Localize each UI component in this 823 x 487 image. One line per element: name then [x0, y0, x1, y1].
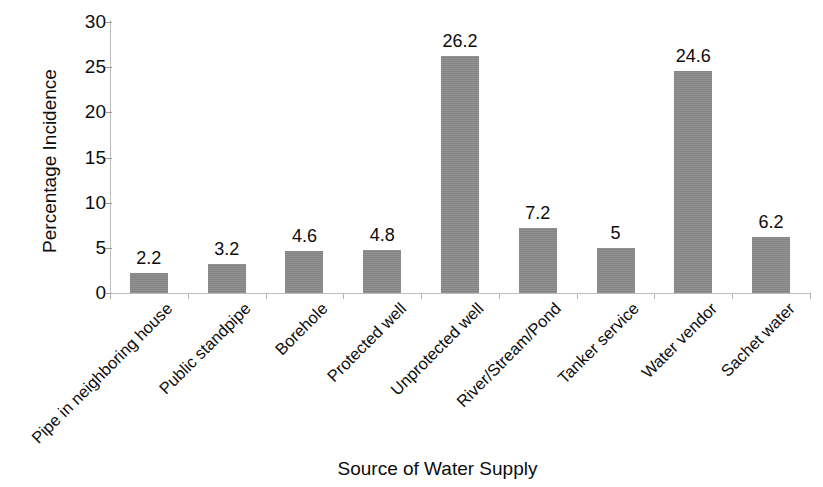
- plot-area: 2.23.24.64.826.27.2524.66.2: [110, 22, 810, 293]
- bar-chart: Percentage Incidence 051015202530 2.23.2…: [0, 0, 823, 487]
- x-axis-tick-mark: [577, 293, 578, 299]
- bar-slot: 7.2: [499, 22, 577, 293]
- bar-value-label: 4.8: [370, 226, 395, 244]
- bar[interactable]: [752, 237, 790, 293]
- bar-slot: 24.6: [654, 22, 732, 293]
- x-axis-tick-mark: [654, 293, 655, 299]
- x-axis-category-labels: Pipe in neighboring housePublic standpip…: [110, 293, 810, 443]
- x-axis-title-text: Source of Water Supply: [338, 458, 538, 480]
- x-axis-label-slot: Sachet water: [732, 293, 810, 443]
- bar-slot: 26.2: [421, 22, 499, 293]
- bar[interactable]: [285, 251, 323, 293]
- bar-slot: 4.6: [266, 22, 344, 293]
- bar-slot: 4.8: [343, 22, 421, 293]
- x-axis-tick-mark: [110, 293, 111, 299]
- y-axis-tick-label: 30: [66, 12, 106, 31]
- bar-slot: 5: [577, 22, 655, 293]
- bar[interactable]: [597, 248, 635, 293]
- bar[interactable]: [519, 228, 557, 293]
- y-axis-tick-mark: [105, 112, 112, 113]
- bar-value-label: 2.2: [136, 249, 161, 267]
- bar-value-label: 26.2: [442, 32, 477, 50]
- bar[interactable]: [208, 264, 246, 293]
- y-axis-tick-label: 0: [66, 283, 106, 302]
- x-axis-category-label: Borehole: [272, 299, 332, 359]
- y-axis-tick-label: 15: [66, 148, 106, 167]
- x-axis-tick-mark: [810, 293, 811, 299]
- bar-value-label: 6.2: [759, 213, 784, 231]
- bar[interactable]: [130, 273, 168, 293]
- x-axis-tick-mark: [732, 293, 733, 299]
- bar-value-label: 3.2: [214, 240, 239, 258]
- bar[interactable]: [674, 71, 712, 293]
- bar-slot: 3.2: [188, 22, 266, 293]
- x-axis-label-slot: Public standpipe: [188, 293, 266, 443]
- y-axis-tick-mark: [105, 203, 112, 204]
- bar-value-label: 4.6: [292, 227, 317, 245]
- y-axis-tick-mark: [105, 67, 112, 68]
- y-axis-tick-label: 10: [66, 193, 106, 212]
- bar[interactable]: [363, 250, 401, 293]
- y-axis-tick-label: 5: [66, 238, 106, 257]
- bar-value-label: 7.2: [525, 204, 550, 222]
- bar-value-label: 5: [611, 224, 621, 242]
- x-axis-tick-mark: [343, 293, 344, 299]
- bar-slot: 6.2: [732, 22, 810, 293]
- y-axis-tick-label: 25: [66, 57, 106, 76]
- x-axis-tick-mark: [188, 293, 189, 299]
- x-axis-tick-mark: [266, 293, 267, 299]
- bar-slot: 2.2: [110, 22, 188, 293]
- y-axis-tick-mark: [105, 22, 112, 23]
- x-axis-title: Source of Water Supply: [0, 458, 823, 480]
- bar-value-label: 24.6: [676, 47, 711, 65]
- y-axis-title: Percentage Incidence: [39, 31, 61, 291]
- x-axis-tick-mark: [421, 293, 422, 299]
- y-axis-tick-label: 20: [66, 102, 106, 121]
- y-axis-tick-mark: [105, 158, 112, 159]
- bar[interactable]: [441, 56, 479, 293]
- y-axis-tick-mark: [105, 248, 112, 249]
- x-axis-tick-mark: [499, 293, 500, 299]
